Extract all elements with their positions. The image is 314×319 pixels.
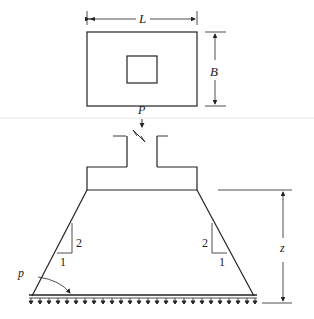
elevation-view [29, 119, 292, 303]
pressure-pointer [38, 277, 70, 293]
slope-triangle-right [212, 223, 227, 253]
length-label: L [139, 12, 146, 25]
slope-left-run: 1 [60, 256, 66, 268]
column-plan [127, 56, 157, 83]
slope-triangle-left [57, 223, 72, 253]
plan-view [87, 11, 226, 106]
footing [87, 167, 197, 190]
slope-left-rise: 2 [76, 237, 82, 249]
pressure-arrows [29, 298, 257, 304]
footing-plan [87, 32, 197, 106]
pressure-label: p [18, 267, 24, 279]
depth-label: z [280, 242, 285, 254]
diagram-canvas [0, 0, 314, 319]
load-label: P [138, 104, 145, 116]
slope-right-rise: 2 [202, 237, 208, 249]
slope-right-run: 1 [219, 256, 225, 268]
width-label: B [210, 65, 218, 78]
